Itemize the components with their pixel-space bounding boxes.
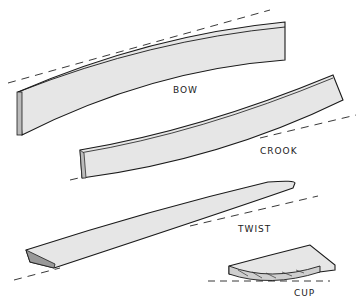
twist-label: TWIST (238, 224, 271, 234)
cup-board (208, 245, 335, 281)
cup-label: CUP (294, 288, 315, 298)
bow-end-grain (17, 92, 22, 135)
warp-diagram (0, 0, 356, 306)
bow-label: BOW (173, 85, 198, 95)
crook-label: CROOK (260, 146, 298, 156)
